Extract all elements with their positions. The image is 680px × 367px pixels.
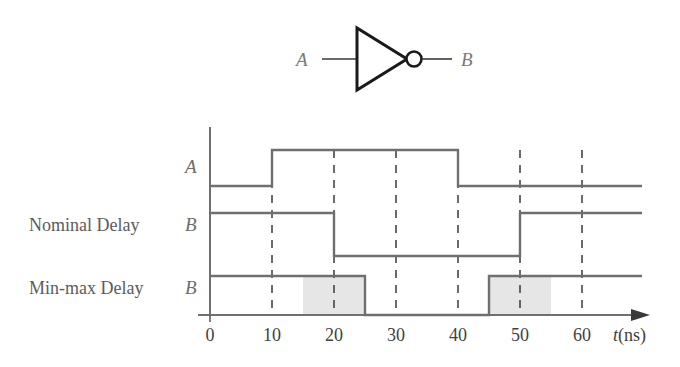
tick-label-60: 60 — [567, 326, 597, 344]
time-axis — [198, 307, 650, 322]
uncertainty-band-rise — [489, 276, 551, 315]
tick-label-10: 10 — [257, 326, 287, 344]
row-description-min-max-delay: Min-max Delay — [29, 279, 143, 297]
timing-diagram-figure: A B A Nominal Delay B Min-max Delay B 0 … — [0, 0, 680, 367]
gate-triangle — [357, 28, 407, 90]
row-description-nominal-delay: Nominal Delay — [29, 216, 139, 234]
tick-label-50: 50 — [505, 326, 535, 344]
gate-output-label: B — [461, 50, 473, 69]
waveform-b-minmax — [210, 276, 642, 315]
gate-input-label: A — [296, 50, 308, 69]
gate-inversion-bubble — [407, 52, 422, 67]
tick-label-20: 20 — [319, 326, 349, 344]
waveform-b-nominal — [210, 213, 642, 256]
signal-label-b-minmax: B — [185, 278, 197, 297]
axis-title-unit: (ns) — [618, 325, 646, 345]
time-axis-arrowhead — [631, 309, 650, 321]
waveform-a — [210, 150, 642, 186]
tick-label-40: 40 — [443, 326, 473, 344]
uncertainty-band-fall — [303, 276, 365, 315]
figure-canvas — [0, 0, 680, 367]
uncertainty-bands — [303, 276, 551, 315]
signal-label-a: A — [185, 157, 197, 176]
tick-label-30: 30 — [381, 326, 411, 344]
signal-label-b-nominal: B — [185, 215, 197, 234]
tick-label-0: 0 — [200, 326, 220, 344]
inverter-gate-symbol — [322, 28, 452, 90]
axis-title: t(ns) — [613, 326, 646, 344]
